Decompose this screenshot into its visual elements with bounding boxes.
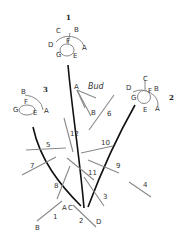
bud-point-a: A bbox=[74, 83, 79, 91]
leaf-1-label: 1 bbox=[53, 213, 57, 221]
leaf-10 bbox=[81, 146, 113, 153]
leaf-1 bbox=[37, 201, 62, 221]
flower-1-label-f: F bbox=[66, 37, 70, 45]
plant-diagram: 1 C B D F A G E 2 C D B F G E A 3 B F G … bbox=[0, 0, 181, 243]
leaf-4-label: 4 bbox=[143, 181, 148, 189]
flower-1-label-b: B bbox=[74, 26, 79, 34]
flower-1-label-c: C bbox=[56, 27, 61, 35]
bud-point-b: B bbox=[91, 109, 96, 117]
leaf-8 bbox=[57, 166, 70, 199]
flower-3-label-f: F bbox=[24, 98, 28, 106]
bud: Bud A B bbox=[74, 82, 105, 117]
leaf-10-label: 10 bbox=[101, 139, 110, 147]
bud-label: Bud bbox=[88, 82, 105, 91]
leaf-7 bbox=[22, 157, 56, 175]
flower-3-label-b: B bbox=[21, 88, 26, 96]
stem-left bbox=[33, 127, 81, 206]
leaf-6-label: 6 bbox=[107, 110, 112, 118]
leaf-2-label: 2 bbox=[79, 217, 83, 225]
flower-1-label-g: G bbox=[56, 51, 61, 59]
leaf-5-label: 5 bbox=[46, 141, 50, 149]
leaf-8-label: 8 bbox=[54, 182, 58, 190]
leaf-3 bbox=[84, 177, 104, 206]
flower-2-label-g: G bbox=[131, 94, 136, 102]
flower-2-label-b: B bbox=[154, 85, 159, 93]
base: 1 B A 2 C D bbox=[35, 201, 101, 232]
flower-1-label-e: E bbox=[73, 52, 77, 60]
flower-3-label-e: E bbox=[33, 109, 37, 117]
flower-1-label-d: D bbox=[48, 41, 53, 49]
leaf-3-label: 3 bbox=[103, 193, 107, 201]
flower-2-number: 2 bbox=[169, 93, 174, 102]
flower-2-label-f: F bbox=[148, 87, 152, 95]
flower-2-label-a: A bbox=[155, 105, 160, 113]
flower-2-label-e: E bbox=[143, 106, 147, 114]
base-label-b: B bbox=[35, 224, 40, 232]
leaf-12-label: 12 bbox=[70, 130, 79, 138]
flower-3-label-g: G bbox=[13, 106, 18, 114]
leaf-9-label: 9 bbox=[116, 162, 120, 170]
base-label-d: D bbox=[96, 218, 101, 226]
stem-right bbox=[88, 105, 135, 207]
flower-1-label-a: A bbox=[82, 44, 87, 52]
leaf-4 bbox=[129, 182, 151, 197]
flower-2-label-d: D bbox=[126, 84, 131, 92]
leaf-7-label: 7 bbox=[30, 162, 34, 170]
flower-1-number: 1 bbox=[66, 13, 71, 22]
base-label-c: C bbox=[68, 204, 73, 212]
flower-2-label-c: C bbox=[143, 75, 148, 83]
flower-3: 3 B F G E A bbox=[13, 85, 49, 117]
leaf-11-label: 11 bbox=[88, 169, 97, 177]
base-label-a: A bbox=[62, 204, 67, 212]
leaf-2 bbox=[73, 205, 96, 227]
flower-3-label-a: A bbox=[44, 107, 49, 115]
flower-1: 1 C B D F A G E bbox=[48, 13, 87, 60]
flower-3-number: 3 bbox=[43, 85, 48, 94]
flower-1-inner-loop bbox=[60, 44, 74, 56]
